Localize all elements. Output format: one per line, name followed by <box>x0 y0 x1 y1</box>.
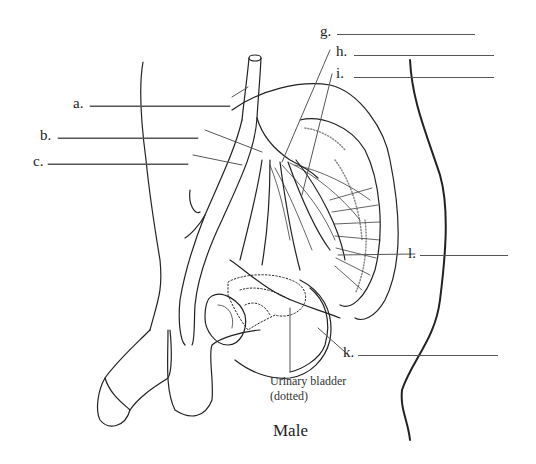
label-h: h. <box>336 44 347 59</box>
label-a: a. <box>73 96 83 111</box>
pudendal-nerve <box>230 260 340 318</box>
label-l: l. <box>408 246 416 261</box>
sacrum-outline <box>300 119 380 306</box>
plexus-fibers <box>270 163 370 250</box>
answer-blank-c[interactable] <box>48 164 188 165</box>
label-g: g. <box>320 24 331 39</box>
bladder-note-line1: Urinary bladder <box>270 374 346 388</box>
anatomy-illustration <box>0 0 536 464</box>
answer-blank-k[interactable] <box>358 355 498 356</box>
scrotum-outline <box>168 330 260 416</box>
answer-blank-a[interactable] <box>90 106 230 107</box>
glans-outline <box>105 378 130 410</box>
answer-blank-l[interactable] <box>420 255 508 256</box>
penis-outline <box>98 330 172 426</box>
external-vessel <box>185 190 205 238</box>
body-outline-left <box>141 62 161 330</box>
urinary-bladder-dotted <box>228 275 306 330</box>
label-b: b. <box>40 128 51 143</box>
common-iliac-left <box>179 118 257 345</box>
answer-blank-b[interactable] <box>58 138 198 139</box>
answer-blank-g[interactable] <box>337 34 475 35</box>
bladder-note-line2: (dotted) <box>270 389 308 403</box>
answer-blank-h[interactable] <box>354 55 494 56</box>
figure-caption: Male <box>273 421 308 441</box>
label-c: c. <box>33 154 43 169</box>
label-i: i. <box>336 66 344 81</box>
answer-blank-i[interactable] <box>354 77 494 78</box>
label-k: k. <box>343 345 354 360</box>
